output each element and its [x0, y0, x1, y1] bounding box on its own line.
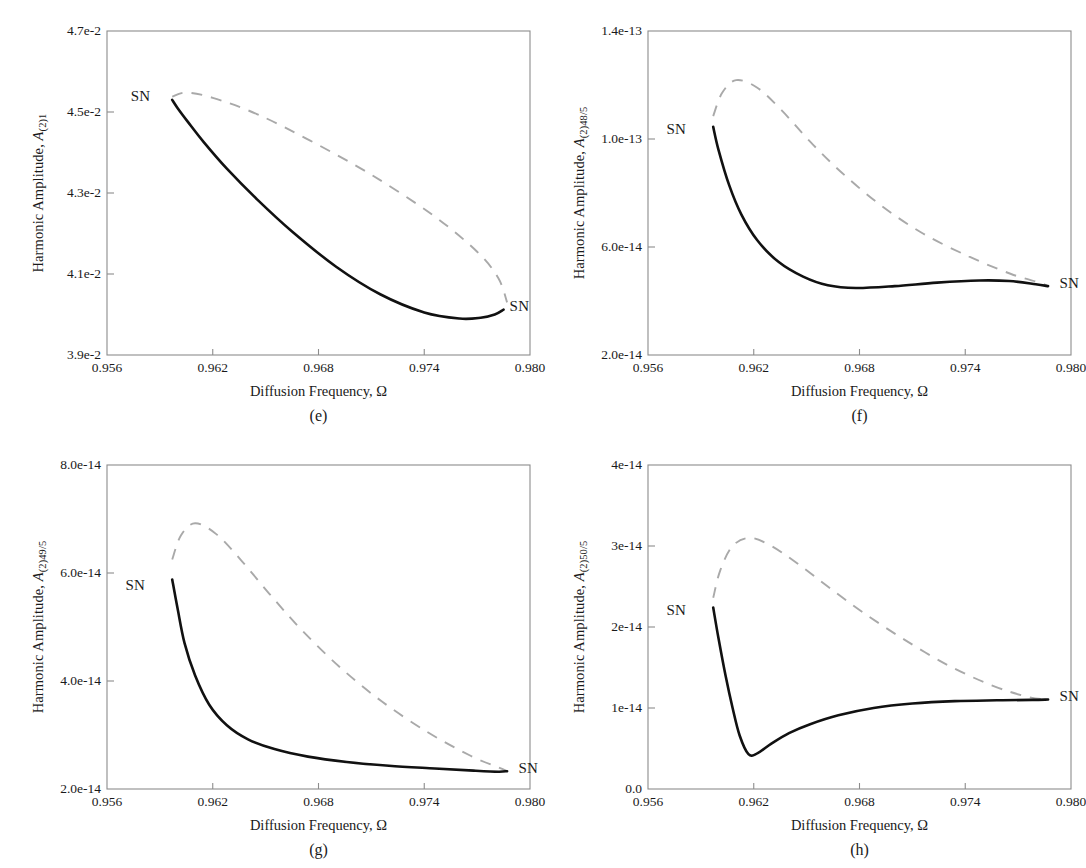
x-tick-label: 0.962 — [198, 794, 228, 810]
curve-stable-g — [172, 579, 507, 771]
y-tick-label: 1.4e-13 — [601, 23, 642, 39]
curve-unstable-h — [713, 538, 1048, 700]
x-axis-label: Diffusion Frequency, Ω — [648, 817, 1071, 834]
x-tick-label: 0.974 — [409, 794, 439, 810]
x-tick-label: 0.974 — [950, 794, 980, 810]
y-tick-label: 6.0e-14 — [60, 565, 101, 581]
curve-unstable-e — [172, 93, 507, 303]
x-axis-label: Diffusion Frequency, Ω — [107, 383, 530, 400]
curve-unstable-f — [713, 80, 1048, 286]
y-tick-label: 1e-14 — [611, 700, 642, 716]
x-tick-label: 0.962 — [739, 360, 769, 376]
curve-stable-f — [713, 127, 1048, 288]
y-tick-label: 4e-14 — [611, 457, 642, 473]
x-tick-label: 0.980 — [1056, 794, 1086, 810]
curve-stable-h — [713, 608, 1048, 756]
y-tick-labels: 3.9e-24.1e-24.3e-24.5e-24.7e-2 — [0, 0, 101, 434]
x-tick-label: 0.956 — [92, 360, 122, 376]
x-tick-label: 0.956 — [92, 794, 122, 810]
y-tick-labels: 2.0e-144.0e-146.0e-148.0e-14 — [0, 434, 101, 868]
x-tick-label: 0.956 — [633, 794, 663, 810]
panel-g: 2.0e-144.0e-146.0e-148.0e-140.9560.9620.… — [0, 434, 541, 868]
plot-frame — [648, 31, 1071, 355]
y-tick-label: 4.1e-2 — [67, 266, 101, 282]
x-tick-label: 0.968 — [303, 360, 333, 376]
y-tick-label: 2e-14 — [611, 619, 642, 635]
y-tick-labels: 0.01e-142e-143e-144e-14 — [541, 434, 642, 868]
curve-unstable-g — [172, 523, 507, 771]
plot-frame — [107, 465, 530, 789]
sn-annotation: SN — [1059, 275, 1079, 292]
x-axis-label: Diffusion Frequency, Ω — [648, 383, 1071, 400]
x-tick-label: 0.974 — [950, 360, 980, 376]
panel-f: 2.0e-146.0e-141.0e-131.4e-130.9560.9620.… — [541, 0, 1082, 434]
sn-annotation: SN — [518, 760, 538, 777]
sn-annotation: SN — [510, 298, 530, 315]
curve-stable-e — [172, 100, 503, 319]
x-tick-label: 0.968 — [844, 794, 874, 810]
panel-caption-f: (f) — [648, 407, 1071, 425]
panel-caption-h: (h) — [648, 841, 1071, 859]
y-tick-label: 6.0e-14 — [601, 239, 642, 255]
sn-annotation: SN — [666, 121, 686, 138]
panel-caption-e: (e) — [107, 407, 530, 425]
x-tick-label: 0.968 — [844, 360, 874, 376]
y-tick-label: 4.0e-14 — [60, 673, 101, 689]
y-tick-label: 3e-14 — [611, 538, 642, 554]
panel-caption-g: (g) — [107, 841, 530, 859]
x-tick-label: 0.980 — [1056, 360, 1086, 376]
y-tick-label: 4.3e-2 — [67, 185, 101, 201]
x-tick-label: 0.974 — [409, 360, 439, 376]
plot-frame — [648, 465, 1071, 789]
y-tick-label: 1.0e-13 — [601, 131, 642, 147]
y-tick-label: 8.0e-14 — [60, 457, 101, 473]
x-tick-label: 0.968 — [303, 794, 333, 810]
y-tick-label: 4.7e-2 — [67, 23, 101, 39]
panel-e: 3.9e-24.1e-24.3e-24.5e-24.7e-20.9560.962… — [0, 0, 541, 434]
sn-annotation: SN — [125, 577, 145, 594]
sn-annotation: SN — [131, 88, 151, 105]
x-tick-label: 0.962 — [739, 794, 769, 810]
panel-h: 0.01e-142e-143e-144e-140.9560.9620.9680.… — [541, 434, 1082, 868]
x-tick-label: 0.956 — [633, 360, 663, 376]
plot-frame — [107, 31, 530, 355]
y-tick-labels: 2.0e-146.0e-141.0e-131.4e-13 — [541, 0, 642, 434]
x-axis-label: Diffusion Frequency, Ω — [107, 817, 530, 834]
y-tick-label: 4.5e-2 — [67, 104, 101, 120]
sn-annotation: SN — [1059, 688, 1079, 705]
x-tick-label: 0.962 — [198, 360, 228, 376]
sn-annotation: SN — [666, 602, 686, 619]
